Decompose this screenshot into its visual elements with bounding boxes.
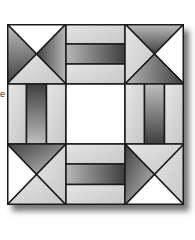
edge-text-fragment: e xyxy=(0,90,5,99)
cell-middle-left xyxy=(7,84,66,144)
cell-bottom-right xyxy=(125,144,184,205)
quilt-block xyxy=(7,24,184,205)
cell-center xyxy=(66,84,125,144)
cell-middle-right xyxy=(125,84,184,144)
quilt-block-diagram xyxy=(7,24,184,205)
cell-bottom-left xyxy=(7,144,66,205)
cell-top-left xyxy=(7,24,66,84)
cell-top-center xyxy=(66,24,125,84)
cell-bottom-center xyxy=(66,144,125,205)
cell-top-right xyxy=(125,24,184,84)
